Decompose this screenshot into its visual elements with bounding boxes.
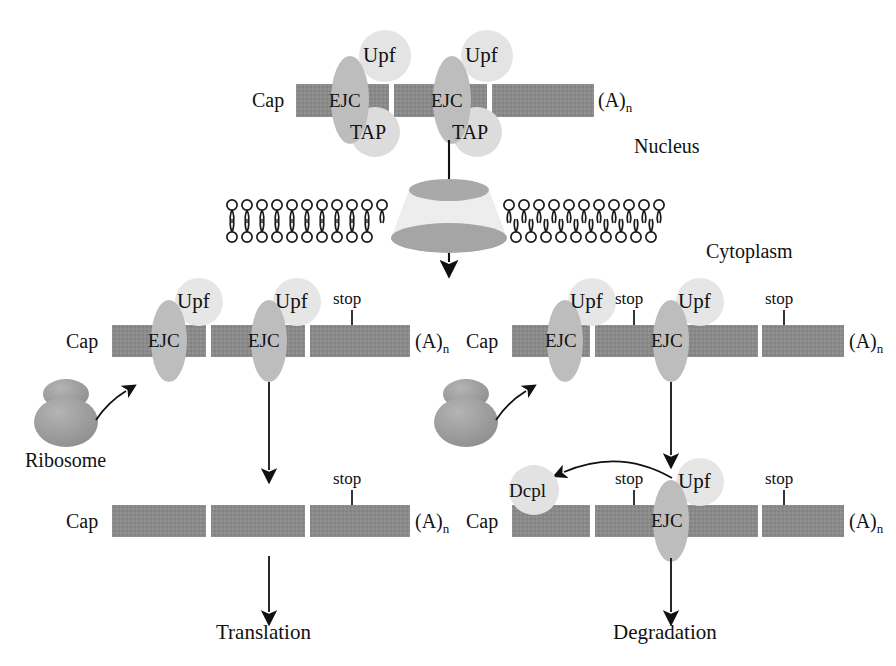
right-product-upf-label: Upf: [678, 471, 711, 492]
left-ribosome-arrow: [96, 391, 126, 420]
right-ejc-label-1: EJC: [545, 331, 577, 350]
degradation-outcome-label: Degradation: [613, 622, 717, 643]
right-upf-label-1: Upf: [570, 291, 603, 312]
nuclear-tap-label-2: TAP: [452, 122, 488, 142]
ribosome-label: Ribosome: [25, 450, 106, 470]
right-ejc-label-2: EJC: [651, 331, 683, 350]
left-polya-label: (A)n: [415, 331, 449, 355]
membrane-right: [504, 200, 664, 242]
left-upf-label-1: Upf: [177, 291, 210, 312]
polya-subscript: n: [443, 521, 450, 536]
left-product-cap-label: Cap: [66, 511, 98, 531]
right-upf-label-2: Upf: [678, 291, 711, 312]
left-stop-label: stop: [333, 290, 361, 307]
polya-text: (A): [598, 89, 626, 111]
cytoplasm-label: Cytoplasm: [706, 241, 793, 261]
membrane-left: [227, 200, 387, 242]
nuclear-cap-label: Cap: [252, 90, 284, 110]
right-product-polya-label: (A)n: [849, 511, 883, 535]
nuclear-pore: [391, 179, 507, 253]
polya-subscript: n: [626, 100, 633, 115]
nuclear-upf-label-2: Upf: [465, 45, 498, 66]
nuclear-polya-label: (A)n: [598, 90, 632, 114]
polya-text: (A): [849, 510, 877, 532]
right-product-cap-label: Cap: [466, 511, 498, 531]
right-product-normal-stop-label: stop: [765, 470, 793, 487]
polya-subscript: n: [443, 341, 450, 356]
left-upf-label-2: Upf: [275, 291, 308, 312]
nmd-pathway-figure: Cap (A)n EJC Upf TAP EJC Upf TAP Nucleus…: [0, 0, 896, 666]
left-product-stop-label: stop: [333, 470, 361, 487]
left-cap-label: Cap: [66, 331, 98, 351]
left-product-polya-label: (A)n: [415, 511, 449, 535]
polya-text: (A): [415, 510, 443, 532]
right-cap-label: Cap: [466, 331, 498, 351]
polya-subscript: n: [877, 521, 884, 536]
polya-text: (A): [415, 330, 443, 352]
polya-subscript: n: [877, 341, 884, 356]
decapping-enzyme-label: Dcpl: [509, 481, 546, 500]
nuclear-ejc-label-2: EJC: [431, 91, 463, 110]
nucleus-label: Nucleus: [634, 136, 700, 156]
left-product-mrna: [112, 505, 410, 537]
right-ribosome-icon: [434, 379, 498, 447]
nuclear-upf-label-1: Upf: [363, 45, 396, 66]
nuclear-tap-label-1: TAP: [350, 122, 386, 142]
right-ribosome-arrow: [496, 391, 526, 420]
left-ribosome-icon: [34, 379, 98, 447]
translation-outcome-label: Translation: [216, 622, 311, 643]
right-premature-stop-label: stop: [615, 290, 643, 307]
right-product-premature-stop-label: stop: [615, 470, 643, 487]
right-product-ejc-label: EJC: [651, 511, 683, 530]
left-ejc-label-2: EJC: [248, 331, 280, 350]
left-ejc-label-1: EJC: [148, 331, 180, 350]
right-normal-stop-label: stop: [765, 290, 793, 307]
nuclear-ejc-label-1: EJC: [329, 91, 361, 110]
polya-text: (A): [849, 330, 877, 352]
right-polya-label: (A)n: [849, 331, 883, 355]
